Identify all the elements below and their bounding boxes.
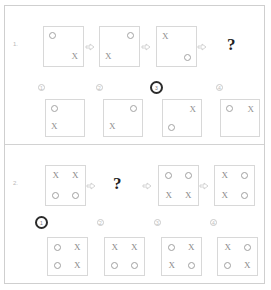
problem-1-option-4-cell[interactable]: X — [220, 99, 260, 137]
glyph-x: X — [225, 243, 232, 252]
glyph-x: X — [109, 122, 116, 131]
problem-1-option-1-cell[interactable]: X — [45, 99, 85, 137]
arrow-right-icon — [85, 42, 95, 52]
glyph-circle — [184, 54, 191, 61]
problem-1-option-3-number[interactable]: 3 — [150, 81, 163, 94]
glyph-x: X — [74, 261, 81, 270]
worksheet-sheet: 1. XXX? 1X2X3X4X 2. XX?XXXX 1XX2XX3XX4XX — [4, 5, 265, 284]
problem-1-option-4-number[interactable]: 4 — [216, 84, 223, 91]
glyph-x: X — [166, 191, 173, 200]
glyph-circle — [51, 105, 58, 112]
glyph-x: X — [74, 243, 81, 252]
problem-1-sequence-cell: X — [156, 26, 197, 67]
problem-1-question-mark: ? — [227, 36, 236, 53]
glyph-x: X — [51, 122, 58, 131]
glyph-circle — [241, 172, 248, 179]
glyph-circle — [168, 244, 175, 251]
glyph-circle — [127, 32, 134, 39]
glyph-circle — [111, 262, 118, 269]
problem-2-option-1-cell[interactable]: XX — [47, 237, 88, 276]
glyph-circle — [54, 262, 61, 269]
glyph-circle — [241, 192, 248, 199]
problem-2-option-2-number[interactable]: 2 — [97, 219, 104, 226]
glyph-circle — [165, 172, 172, 179]
glyph-x: X — [72, 52, 79, 61]
glyph-circle — [185, 172, 192, 179]
glyph-x: X — [222, 191, 229, 200]
problem-2-option-1-number[interactable]: 1 — [35, 216, 48, 229]
problem-2-option-4-cell[interactable]: XX — [217, 237, 258, 276]
glyph-circle — [131, 262, 138, 269]
problem-2-sequence-cell: XX — [158, 165, 199, 206]
arrow-right-icon — [86, 181, 96, 191]
glyph-x: X — [185, 191, 192, 200]
glyph-x: X — [105, 52, 112, 61]
arrow-right-icon — [142, 181, 152, 191]
glyph-circle — [72, 192, 79, 199]
glyph-x: X — [188, 243, 195, 252]
glyph-x: X — [190, 105, 197, 114]
glyph-x: X — [162, 32, 169, 41]
glyph-x: X — [53, 171, 60, 180]
problem-2-option-3-cell[interactable]: XX — [161, 237, 202, 276]
problem-1: 1. XXX? 1X2X3X4X — [5, 6, 264, 144]
glyph-circle — [168, 124, 175, 131]
problem-1-sequence: XXX? — [5, 6, 264, 76]
glyph-circle — [54, 244, 61, 251]
problem-2-option-3-number[interactable]: 3 — [154, 219, 161, 226]
problem-1-sequence-cell: X — [43, 26, 84, 67]
problem-1-option-3-cell[interactable]: X — [162, 99, 202, 137]
glyph-circle — [52, 192, 59, 199]
glyph-x: X — [72, 171, 79, 180]
problem-2-option-2-cell[interactable]: XX — [104, 237, 145, 276]
glyph-x: X — [112, 243, 119, 252]
glyph-circle — [224, 262, 231, 269]
problem-1-option-2-number[interactable]: 2 — [96, 84, 103, 91]
glyph-x: X — [169, 261, 176, 270]
problem-2-sequence-cell: XX — [45, 165, 86, 206]
glyph-x: X — [244, 261, 251, 270]
problem-2-sequence-cell: XX — [214, 165, 255, 206]
problem-2-sequence: XX?XXXX — [5, 145, 264, 215]
problem-2-question-mark: ? — [113, 175, 122, 192]
glyph-circle — [244, 244, 251, 251]
problem-1-option-1-number[interactable]: 1 — [38, 84, 45, 91]
problem-1-sequence-cell: X — [99, 26, 140, 67]
glyph-circle — [49, 32, 56, 39]
glyph-circle — [226, 105, 233, 112]
arrow-right-icon — [141, 42, 151, 52]
glyph-circle — [188, 262, 195, 269]
arrow-right-icon — [197, 42, 207, 52]
arrow-right-icon — [199, 181, 209, 191]
problem-2: 2. XX?XXXX 1XX2XX3XX4XX — [5, 145, 264, 285]
glyph-x: X — [131, 243, 138, 252]
glyph-circle — [130, 105, 137, 112]
problem-1-option-2-cell[interactable]: X — [103, 99, 143, 137]
glyph-x: X — [222, 171, 229, 180]
problem-2-option-4-number[interactable]: 4 — [210, 219, 217, 226]
glyph-x: X — [248, 105, 255, 114]
